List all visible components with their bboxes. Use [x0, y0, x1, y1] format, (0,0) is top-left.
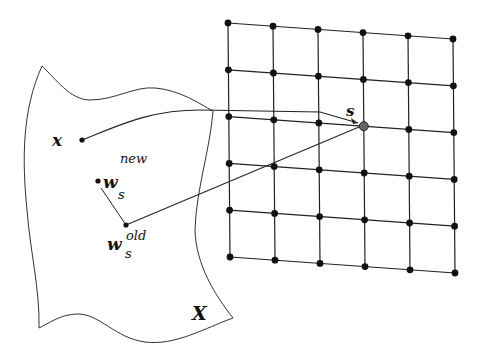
lattice-col-line [453, 39, 455, 273]
lattice-col-line [318, 29, 320, 263]
lattice-node [451, 223, 458, 230]
som-diagram: x w new s w old s s X [0, 0, 482, 359]
lattice-node [450, 129, 457, 136]
lattice-node [361, 170, 368, 177]
lattice-row-line [230, 257, 455, 273]
lattice-node [271, 210, 278, 217]
lattice-node [226, 160, 233, 167]
weight-old-point [123, 222, 128, 227]
lattice-node [407, 266, 414, 273]
lattice-node [317, 260, 324, 267]
winner-s-label: s [346, 102, 355, 120]
lattice-node [270, 70, 277, 77]
lattice-node [225, 20, 232, 27]
lattice-node [272, 257, 279, 264]
weight-new-point [95, 178, 100, 183]
weight-new-label: w [103, 172, 119, 192]
lattice-col-line [273, 26, 275, 260]
lattice-node [406, 173, 413, 180]
lattice-node [225, 66, 232, 73]
lattice-node [360, 76, 367, 83]
lattice-node [360, 29, 367, 36]
lattice-node [405, 32, 412, 39]
lattice-node [225, 113, 232, 120]
lattice-node [316, 213, 323, 220]
weight-new-subscript: s [118, 187, 125, 202]
lattice-node [315, 120, 322, 127]
lattice-node [270, 116, 277, 123]
lattice-col-line [363, 33, 365, 267]
input-x-label: x [51, 130, 63, 150]
lattice-col-line [228, 23, 230, 257]
weight-old-label: w [107, 234, 123, 254]
lattice-col-line [408, 36, 410, 270]
lattice-node [316, 166, 323, 173]
lattice-node [451, 176, 458, 183]
input-space-label: X [191, 302, 208, 324]
lattice-node [315, 26, 322, 33]
lattice-node [227, 254, 234, 261]
weight-old-subscript: s [125, 246, 132, 261]
som-lattice [225, 20, 459, 277]
lattice-node [405, 79, 412, 86]
lattice-node [315, 73, 322, 80]
lattice-row-line [229, 163, 454, 179]
lattice-row-line [228, 23, 453, 39]
lattice-node [270, 23, 277, 30]
input-point-x [79, 137, 84, 142]
wold-to-winner-line [126, 127, 359, 225]
lattice-row-line [230, 210, 455, 226]
lattice-node [362, 263, 369, 270]
lattice-node [450, 82, 457, 89]
lattice-node [361, 216, 368, 223]
lattice-node [226, 207, 233, 214]
lattice-node [405, 126, 412, 133]
lattice-node [406, 220, 413, 227]
lattice-row-line [228, 70, 453, 86]
lattice-row-line [229, 117, 454, 133]
weight-new-superscript: new [120, 151, 147, 166]
winner-node [359, 122, 368, 131]
lattice-node [452, 270, 459, 277]
weight-old-superscript: old [126, 228, 146, 243]
lattice-node [450, 36, 457, 43]
